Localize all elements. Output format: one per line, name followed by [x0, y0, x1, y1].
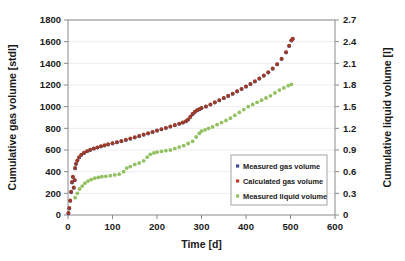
data-point	[93, 176, 97, 180]
data-point	[237, 111, 241, 115]
data-point	[204, 104, 208, 108]
y-axis-left-tick-label: 1600	[40, 36, 61, 47]
data-point	[73, 196, 77, 200]
y-axis-left-tick-label: 200	[45, 188, 61, 199]
data-point	[291, 37, 295, 41]
data-point	[122, 170, 126, 174]
data-point	[177, 122, 181, 126]
data-point	[160, 127, 164, 131]
data-point	[115, 140, 119, 144]
data-point	[95, 145, 99, 149]
data-point	[104, 174, 108, 178]
data-point	[224, 118, 228, 122]
data-point	[69, 190, 73, 194]
data-point	[173, 147, 177, 151]
y-axis-left-title: Cumulative gas volume [stdl]	[6, 45, 18, 191]
data-point	[133, 163, 137, 167]
y-axis-right-tick-label: 2.7	[343, 14, 356, 25]
data-point	[106, 142, 110, 146]
y-axis-right-tick-label: 2.1	[343, 58, 357, 69]
data-point	[186, 142, 190, 146]
data-point	[244, 84, 248, 88]
y-axis-left-tick-label: 1400	[40, 58, 61, 69]
data-point	[231, 92, 235, 96]
data-point	[269, 94, 273, 98]
x-axis-title: Time [d]	[181, 238, 222, 250]
data-point	[68, 198, 72, 202]
y-axis-right-tick-label: 1.8	[343, 79, 356, 90]
data-point	[257, 76, 261, 80]
y-axis-left-tick-label: 400	[45, 166, 61, 177]
data-point	[71, 175, 75, 179]
legend-marker-icon	[236, 194, 239, 197]
data-point	[100, 175, 104, 179]
data-point	[211, 125, 215, 129]
data-point	[251, 103, 255, 107]
data-point	[137, 134, 141, 138]
y-axis-right-tick-label: 1.5	[343, 101, 357, 112]
data-point	[74, 162, 78, 166]
y-axis-left-tick-label: 800	[45, 123, 61, 134]
data-point	[275, 62, 279, 66]
data-point	[229, 116, 233, 120]
data-point	[128, 137, 132, 141]
y-axis-right-tick-label: 2.4	[343, 36, 357, 47]
data-point	[282, 86, 286, 90]
data-point	[200, 129, 204, 133]
data-point	[255, 100, 259, 104]
data-point	[182, 144, 186, 148]
data-point	[96, 176, 100, 180]
data-point	[168, 124, 172, 128]
data-point	[194, 135, 198, 139]
legend-item-label: Calculated gas volume	[243, 177, 323, 186]
data-point	[235, 89, 239, 93]
data-point	[75, 158, 79, 162]
data-point	[215, 123, 219, 127]
data-point	[89, 178, 93, 182]
data-point	[145, 155, 149, 159]
data-point	[67, 206, 71, 210]
y-axis-right-tick-label: 0	[343, 209, 348, 220]
data-point	[213, 100, 217, 104]
data-point	[209, 102, 213, 106]
y-axis-right-tick-label: 0.6	[343, 166, 356, 177]
y-axis-right-title: Cumulative liquid volume [l]	[381, 47, 393, 187]
data-point	[155, 150, 159, 154]
data-point	[168, 148, 172, 152]
y-axis-left-tick-label: 1800	[40, 14, 61, 25]
data-point	[177, 145, 181, 149]
x-axis-tick-label: 0	[65, 221, 70, 232]
data-point	[220, 121, 224, 125]
data-point	[289, 82, 293, 86]
data-point	[246, 105, 250, 109]
data-point	[73, 178, 77, 182]
y-axis-right-tick-label: 0.9	[343, 144, 356, 155]
data-point	[160, 150, 164, 154]
data-point	[277, 88, 281, 92]
chart-figure: 02004006008001000120014001600180000.30.6…	[0, 0, 405, 261]
data-point	[280, 57, 284, 61]
data-point	[99, 144, 103, 148]
data-point	[75, 191, 79, 195]
y-axis-left-tick-label: 0	[56, 209, 61, 220]
data-point	[242, 108, 246, 112]
data-point	[266, 70, 270, 74]
data-point	[80, 184, 84, 188]
data-point	[203, 128, 207, 132]
data-point	[124, 138, 128, 142]
data-point	[249, 82, 253, 86]
x-axis-tick-label: 300	[194, 221, 210, 232]
data-point	[125, 166, 129, 170]
legend-marker-icon	[236, 179, 239, 182]
y-axis-right-tick-label: 0.3	[343, 188, 356, 199]
data-point	[142, 133, 146, 137]
x-axis-tick-label: 400	[238, 221, 254, 232]
x-axis-tick-label: 500	[283, 221, 299, 232]
data-point	[191, 139, 195, 143]
data-point	[148, 152, 152, 156]
chart-canvas: 02004006008001000120014001600180000.30.6…	[0, 0, 405, 261]
data-point	[164, 126, 168, 130]
y-axis-right-tick-label: 1.2	[343, 123, 356, 134]
x-axis-tick-label: 200	[149, 221, 165, 232]
data-point	[240, 87, 244, 91]
